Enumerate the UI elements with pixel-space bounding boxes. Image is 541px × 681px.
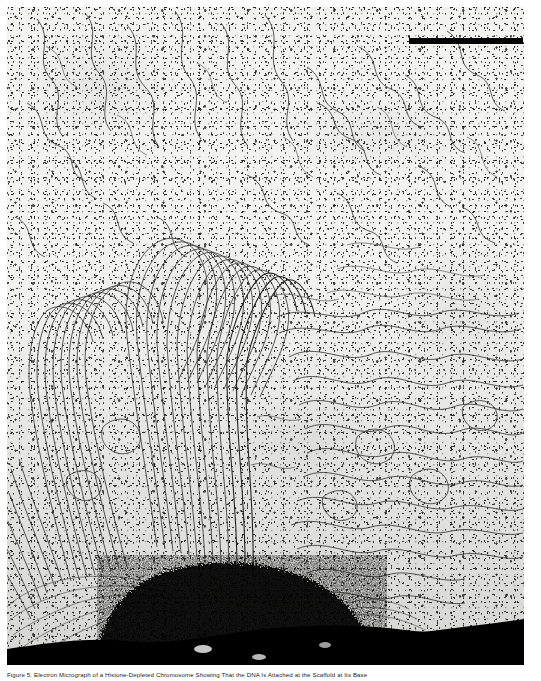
figure-page: Figure 5. Electron Micrograph of a Histo… <box>0 0 541 681</box>
chromosome-scaffold-core <box>7 545 524 665</box>
figure-caption: Figure 5. Electron Micrograph of a Histo… <box>7 671 534 678</box>
scale-bar <box>409 38 523 44</box>
micrograph-plate <box>7 7 524 665</box>
